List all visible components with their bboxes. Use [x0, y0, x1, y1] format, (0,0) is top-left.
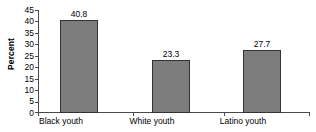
x-tick-mark: [309, 113, 310, 116]
y-tick-label: 10: [18, 86, 34, 95]
y-tick-label: 45: [18, 6, 34, 15]
y-tick-label: 5: [18, 97, 34, 106]
y-tick-mark: [35, 10, 38, 11]
bar: [243, 50, 281, 113]
bar-value-label: 27.7: [238, 40, 286, 49]
y-tick-mark: [35, 21, 38, 22]
y-tick-mark: [35, 56, 38, 57]
x-category-label: Latino youth: [193, 117, 293, 126]
y-tick-label: 15: [18, 75, 34, 84]
y-tick-label: 20: [18, 63, 34, 72]
bar: [152, 60, 190, 113]
y-tick-label: 25: [18, 52, 34, 61]
y-tick-label: 40: [18, 17, 34, 26]
y-tick-label: 30: [18, 40, 34, 49]
y-tick-mark: [35, 79, 38, 80]
x-category-label: Black youth: [11, 117, 111, 126]
y-tick-mark: [35, 44, 38, 45]
bar-value-label: 23.3: [147, 50, 195, 59]
plot-area: 40.8 23.3 27.7: [38, 10, 310, 113]
y-tick-mark: [35, 33, 38, 34]
bar-chart: Percent 45 40 35 30 25 20 15 10 5 0 40.8…: [0, 0, 316, 132]
y-axis-line: [38, 10, 39, 113]
y-tick-mark: [35, 67, 38, 68]
y-tick-mark: [35, 102, 38, 103]
y-axis-tick-labels: 45 40 35 30 25 20 15 10 5 0: [14, 0, 34, 132]
bar: [60, 20, 98, 113]
y-tick-label: 35: [18, 29, 34, 38]
y-tick-mark: [35, 90, 38, 91]
bar-value-label: 40.8: [55, 10, 103, 19]
x-category-label: White youth: [102, 117, 202, 126]
